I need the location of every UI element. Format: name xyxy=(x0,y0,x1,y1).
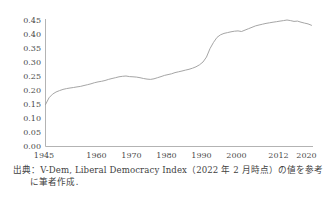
x-tick-label: 1960 xyxy=(86,151,106,160)
source-note-line1: 出典：V-Dem, Liberal Democracy Index（2022 年… xyxy=(0,164,333,176)
chart-axes xyxy=(46,19,314,147)
y-tick-label: 0.35 xyxy=(23,44,41,53)
y-tick-label: 0.45 xyxy=(23,16,41,25)
y-tick-label: 0.10 xyxy=(23,114,41,123)
line-chart: 0.000.050.100.150.200.250.300.350.400.45… xyxy=(0,0,333,162)
x-axis-tick-labels: 19451960197019801990200020122020 xyxy=(34,151,317,160)
y-tick-label: 0.20 xyxy=(23,86,41,95)
x-tick-label: 2012 xyxy=(268,151,288,160)
y-axis-tick-labels: 0.000.050.100.150.200.250.300.350.400.45 xyxy=(23,16,41,151)
x-tick-label: 2020 xyxy=(296,151,316,160)
source-note: 出典：V-Dem, Liberal Democracy Index（2022 年… xyxy=(0,164,333,188)
line-chart-svg: 0.000.050.100.150.200.250.300.350.400.45… xyxy=(0,0,333,162)
ldi-chart-figure: 0.000.050.100.150.200.250.300.350.400.45… xyxy=(0,0,333,197)
y-tick-label: 0.40 xyxy=(23,30,41,39)
x-tick-label: 1990 xyxy=(191,151,211,160)
y-tick-label: 0.05 xyxy=(23,128,41,137)
x-tick-label: 1980 xyxy=(156,151,176,160)
source-note-line2: に筆者作成． xyxy=(0,176,333,188)
x-tick-label: 1970 xyxy=(121,151,141,160)
x-tick-label: 2000 xyxy=(226,151,246,160)
ldi-line-series xyxy=(46,20,312,105)
y-tick-label: 0.00 xyxy=(23,142,41,151)
x-tick-label: 1945 xyxy=(34,151,54,160)
y-tick-label: 0.25 xyxy=(23,72,41,81)
y-tick-label: 0.30 xyxy=(23,58,41,67)
y-tick-label: 0.15 xyxy=(23,100,41,109)
